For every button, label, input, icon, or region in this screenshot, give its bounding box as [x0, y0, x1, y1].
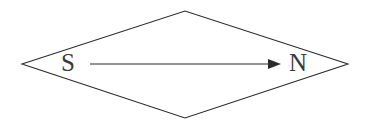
diagram-canvas: S N [0, 0, 375, 125]
direction-arrow-head-icon [268, 59, 281, 69]
south-pole-label: S [61, 49, 75, 76]
dipole-diagram: S N [0, 0, 375, 125]
north-pole-label: N [289, 49, 307, 76]
